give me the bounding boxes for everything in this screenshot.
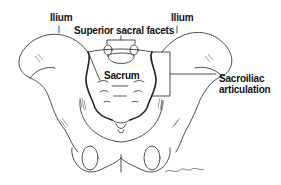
pelvis-diagram: Ilium Ilium Superior sacral facets Sacru… — [0, 0, 281, 185]
sacrum — [86, 52, 112, 120]
left-ilium — [19, 34, 88, 152]
label-ilium-right: Ilium — [171, 12, 193, 23]
label-superior-sacral-facets: Superior sacral facets — [74, 25, 174, 36]
label-sacroiliac-1: Sacroiliac — [219, 73, 264, 84]
label-sacroiliac-2: articulation — [219, 84, 271, 95]
label-sacrum: Sacrum — [104, 70, 140, 81]
artist-signature — [165, 168, 204, 172]
label-ilium-left: Ilium — [50, 12, 72, 23]
